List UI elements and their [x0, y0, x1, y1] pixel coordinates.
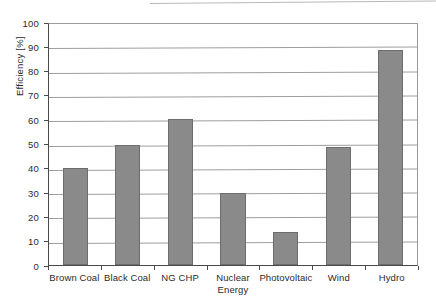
- y-tick: 100: [23, 17, 48, 29]
- x-axis-label-line: NG CHP: [154, 272, 207, 284]
- y-axis-ticks: 1009080706050403020100: [0, 23, 48, 266]
- y-tick-label: 60: [28, 115, 44, 126]
- y-tick: 90: [28, 41, 48, 53]
- y-tick: 40: [28, 163, 48, 175]
- x-axis-tickmarks: [48, 266, 418, 270]
- bar: [273, 232, 298, 265]
- x-axis-label-line: Black Coal: [101, 272, 154, 284]
- y-tick-label: 50: [28, 139, 44, 150]
- bar: [63, 168, 88, 265]
- y-tick: 0: [34, 260, 48, 272]
- y-tick: 60: [28, 114, 48, 126]
- x-axis-label-line: Photovoltaic: [259, 272, 312, 284]
- y-tick-label: 100: [23, 18, 44, 29]
- x-axis-label-line: Energy: [207, 284, 260, 296]
- chart-screenshot: Efficiency [%] 1009080706050403020100 Br…: [0, 0, 436, 308]
- bar-slot: [312, 24, 365, 265]
- bar-slot: [154, 24, 207, 265]
- x-axis-label-line: Hydro: [365, 272, 418, 284]
- y-tick: 70: [28, 90, 48, 102]
- y-tick: 10: [28, 236, 48, 248]
- x-tickmark: [312, 266, 313, 270]
- x-tickmark: [48, 266, 49, 270]
- x-tickmark: [101, 266, 102, 270]
- bar: [220, 193, 245, 265]
- y-tick-label: 80: [28, 66, 44, 77]
- bar: [168, 119, 193, 265]
- x-axis-label: Photovoltaic: [259, 272, 312, 295]
- x-axis-label-line: Brown Coal: [48, 272, 101, 284]
- y-tick-label: 10: [28, 236, 44, 247]
- y-tick-label: 0: [34, 261, 44, 272]
- y-tick: 30: [28, 187, 48, 199]
- x-axis-label-line: Nuclear: [207, 272, 260, 284]
- y-tick: 80: [28, 66, 48, 78]
- bar-slot: [49, 24, 102, 265]
- bar-series: [49, 24, 417, 265]
- x-axis-label: Hydro: [365, 272, 418, 295]
- bar: [115, 145, 140, 265]
- bar-slot: [102, 24, 155, 265]
- y-tick-label: 90: [28, 42, 44, 53]
- y-tick-label: 70: [28, 90, 44, 101]
- bar: [378, 50, 403, 265]
- y-tick: 20: [28, 211, 48, 223]
- x-tickmark: [365, 266, 366, 270]
- x-axis-label: Brown Coal: [48, 272, 101, 295]
- x-axis-label-line: Wind: [312, 272, 365, 284]
- x-tickmark: [418, 266, 419, 270]
- x-axis-label: NuclearEnergy: [207, 272, 260, 295]
- x-tickmark: [259, 266, 260, 270]
- scan-artifact-line: [150, 1, 436, 4]
- bar-slot: [207, 24, 260, 265]
- x-axis-label: Wind: [312, 272, 365, 295]
- x-axis-label: Black Coal: [101, 272, 154, 295]
- y-tick-label: 20: [28, 212, 44, 223]
- y-tick: 50: [28, 139, 48, 151]
- y-tick-label: 30: [28, 188, 44, 199]
- bar-slot: [364, 24, 417, 265]
- bar-slot: [259, 24, 312, 265]
- x-axis-labels: Brown CoalBlack CoalNG CHPNuclearEnergyP…: [48, 272, 418, 295]
- x-tickmark: [154, 266, 155, 270]
- x-axis-label: NG CHP: [154, 272, 207, 295]
- bar: [326, 147, 351, 265]
- x-tickmark: [207, 266, 208, 270]
- plot-area: [48, 23, 418, 266]
- y-tick-label: 40: [28, 163, 44, 174]
